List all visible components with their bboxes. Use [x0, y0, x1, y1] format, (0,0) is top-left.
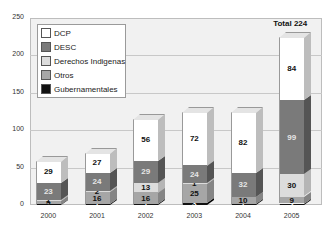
legend-item-derechos-indigenas: Derechos Indigenas: [41, 55, 125, 67]
legend-label: Derechos Indigenas: [54, 57, 125, 66]
bar-side: [207, 107, 214, 166]
x-tick-label: 2004: [228, 212, 258, 219]
legend-item-dcp: DCP: [41, 27, 71, 39]
legend-label: Gubernamentales: [54, 85, 118, 94]
legend-label: DCP: [54, 29, 71, 38]
bar-side: [158, 114, 165, 161]
bar-value-label: 9: [279, 196, 304, 205]
legend-swatch: [41, 28, 51, 38]
bar-value-label: 25: [182, 189, 207, 198]
x-tick-label: 2000: [33, 212, 63, 219]
bar-value-label: 23: [36, 187, 61, 196]
bar-value-label: 10: [231, 196, 256, 205]
bar-value-label: 29: [36, 167, 61, 176]
bar-value-label: 32: [231, 180, 256, 189]
y-tick-label: 150: [2, 88, 24, 95]
bar-value-label: 30: [279, 181, 304, 190]
x-tick-label: 2003: [179, 212, 209, 219]
bar-value-label: 27: [85, 158, 110, 167]
legend-swatch: [41, 70, 51, 80]
legend-swatch: [41, 42, 51, 52]
legend-swatch: [41, 56, 51, 66]
bar-value-label: 99: [279, 133, 304, 142]
x-tick-label: 2002: [131, 212, 161, 219]
bar-value-label: 24: [182, 170, 207, 179]
x-tick-label: 2001: [82, 212, 112, 219]
y-tick-label: 250: [2, 13, 24, 20]
legend-item-otros: Otros: [41, 69, 74, 81]
y-tick-label: 200: [2, 50, 24, 57]
y-tick-label: 0: [2, 200, 24, 207]
bar-value-label: 56: [133, 135, 158, 144]
bar-value-label: 84: [279, 64, 304, 73]
bar-value-label: 72: [182, 134, 207, 143]
y-tick-label: 100: [2, 125, 24, 132]
y-tick-label: 50: [2, 163, 24, 170]
legend-item-desc: DESC: [41, 41, 76, 53]
bar-value-label: 13: [133, 183, 158, 192]
legend-item-gubernamentales: Gubernamentales: [41, 83, 118, 95]
stacked-bar-chart: 050100150200250 151232911622427116132956…: [0, 0, 335, 234]
bar-value-label: 82: [231, 138, 256, 147]
legend-swatch: [41, 84, 51, 94]
bar-side: [304, 95, 311, 174]
bar-value-label: 29: [133, 167, 158, 176]
bar-value-label: 16: [133, 194, 158, 203]
bar-side: [256, 107, 263, 173]
bar-side: [304, 33, 311, 101]
legend: DCP DESC Derechos Indigenas Otros Gubern…: [37, 24, 126, 98]
legend-label: Otros: [54, 71, 74, 80]
legend-label: DESC: [54, 43, 76, 52]
total-annotation: Total 224: [273, 19, 307, 28]
bar-value-label: 24: [85, 177, 110, 186]
x-tick-label: 2005: [277, 212, 307, 219]
